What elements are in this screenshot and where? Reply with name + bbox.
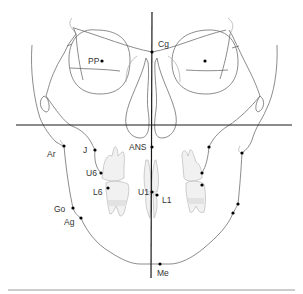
skull-outline (31, 18, 277, 153)
orbits (46, 27, 260, 96)
landmark-l6-contralateral-point (200, 183, 203, 186)
label-ans: ANS (129, 142, 147, 152)
landmark-go-point (71, 206, 74, 209)
orbit-floor-left (186, 70, 228, 71)
landmark-u1-point (150, 190, 153, 193)
skull-left-contour (31, 45, 64, 146)
label-u1: U1 (138, 187, 149, 197)
landmark-ag-contralateral-point (231, 211, 234, 214)
label-pp: PP (88, 56, 100, 66)
landmark-ans-point (150, 145, 153, 148)
landmark-ag-point (79, 216, 82, 219)
skull-right-contour (242, 45, 277, 153)
nasal-bone-left (168, 56, 180, 82)
upper-incisor-left (152, 160, 159, 192)
landmark-l1-point (155, 193, 158, 196)
label-go: Go (54, 204, 66, 214)
supraorbital-line (74, 28, 226, 52)
lower-molar-right (106, 181, 129, 216)
nasal-cavity (126, 56, 180, 138)
frontal-process-right (76, 34, 83, 80)
label-j: J (83, 145, 87, 155)
label-me: Me (157, 268, 169, 278)
lower-incisor-left (153, 194, 157, 218)
landmark-l6-point (106, 186, 109, 189)
teeth (102, 147, 206, 218)
landmark-go-contralateral-point (236, 202, 239, 205)
maxilla-left-lower (202, 147, 209, 173)
landmark-pp-point (100, 59, 103, 62)
lower-incisor-right (146, 194, 151, 218)
landmark-j-point (93, 148, 96, 151)
label-l1: L1 (162, 195, 172, 205)
label-ar: Ar (47, 149, 56, 159)
landmark-u6-contralateral-point (200, 171, 203, 174)
landmark-ar-point (62, 144, 65, 147)
mandible-contour (64, 146, 242, 264)
landmark-j-contralateral-point (207, 145, 210, 148)
label-u6: U6 (86, 168, 97, 178)
zygoma-to-j-right (46, 96, 95, 150)
lower-molar-left-shade (188, 198, 204, 204)
landmark-ar-contralateral-point (240, 151, 243, 154)
landmark-me-point (158, 262, 161, 265)
frontal-process-left (220, 34, 230, 79)
upper-molar-left (182, 150, 202, 181)
landmark-u6-point (99, 171, 102, 174)
zygomatic-left (256, 96, 264, 112)
orbit-floor-right (70, 68, 120, 71)
label-l6: L6 (93, 187, 103, 197)
label-ag: Ag (64, 217, 75, 227)
upper-molar-right (102, 147, 124, 181)
landmark-pp-contralateral-point (203, 59, 206, 62)
lateral-orbital-rim-right (46, 27, 76, 96)
orbit-right (69, 30, 130, 94)
landmark-cg-point (150, 50, 153, 53)
label-cg: Cg (158, 39, 169, 49)
lower-molar-right-shade (108, 200, 126, 206)
nasal-bone-right (126, 56, 137, 82)
cephalometric-diagram: PP Cg ANS J Ar U6 L6 U1 L1 Go Ag Me (0, 0, 303, 294)
lateral-orbital-rim-left (229, 30, 260, 96)
